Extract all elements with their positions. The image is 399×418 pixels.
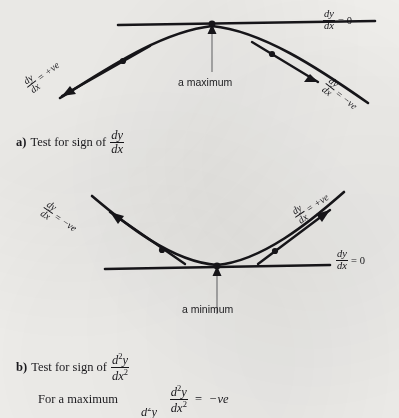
scanned-textbook-page: dy dx = 0 dy dx = +ve dy dx = −ve a [0, 0, 399, 418]
cut-off-next-line: d2y [0, 408, 399, 418]
caption-a-lead: a) [16, 135, 26, 150]
minimum-figure-graphics [0, 172, 399, 322]
tangent-arrow-left-min [110, 212, 124, 224]
axis-label-dydx-zero-max: dy dx = 0 [323, 8, 352, 31]
tangent-arrow-left-max [62, 86, 76, 96]
caption-a: a) Test for sign of dy dx [16, 129, 124, 155]
axis-label-value-max: 0 [347, 15, 352, 26]
caption-a-fraction: dy dx [110, 129, 124, 155]
tangency-point-left-min [159, 247, 165, 253]
caption-b-fraction: d2y dx2 [111, 352, 129, 382]
tangency-point-left-max [120, 58, 126, 64]
caption-b-text: Test for sign of [31, 360, 107, 375]
tangency-point-right-max [269, 51, 275, 57]
fraction-dy-dx: dy dx [336, 249, 348, 271]
cut-off-fraction: d2y [140, 408, 158, 418]
for-a-maximum-text: For a maximum [38, 392, 118, 407]
axis-label-value-min: 0 [360, 255, 365, 266]
caption-a-text: Test for sign of [30, 135, 106, 150]
caption-b: b) Test for sign of d2y dx2 [16, 352, 129, 382]
tangent-line-left-max [62, 46, 150, 96]
for-a-maximum-value: −ve [209, 392, 229, 407]
tangent-line-left-min [110, 212, 185, 264]
fraction-dy-dx: dy dx [323, 9, 335, 31]
pointer-caption-min: a minimum [182, 303, 233, 315]
tangency-point-right-min [272, 248, 278, 254]
axis-label-dydx-zero-min: dy dx = 0 [336, 248, 365, 271]
caption-b-lead: b) [16, 360, 27, 375]
tangent-line-right-max [252, 42, 318, 82]
pointer-caption-max: a maximum [178, 76, 232, 88]
